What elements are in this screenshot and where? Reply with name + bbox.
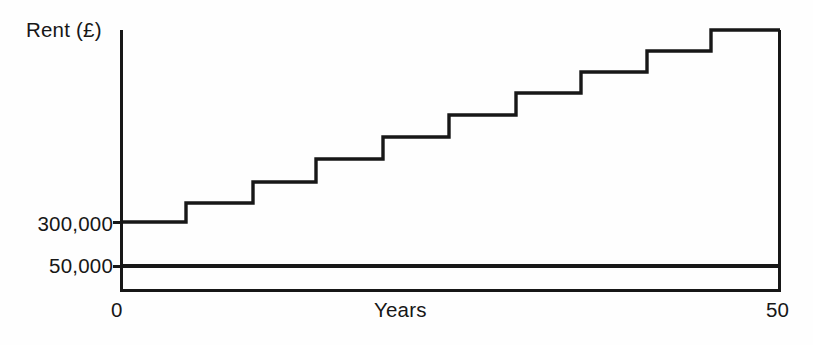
- rent-chart-figure: Rent (£) 300,000 50,000 0 Years 50: [0, 0, 813, 345]
- y-tick-label-300000: 300,000: [37, 214, 113, 235]
- x-tick-label-50: 50: [766, 300, 789, 321]
- x-tick-label-0: 0: [111, 300, 122, 321]
- chart-plot-area: [0, 0, 813, 345]
- x-axis-title: Years: [374, 300, 427, 321]
- y-axis-title: Rent (£): [26, 20, 102, 41]
- stepped-rent-series: [121, 30, 780, 222]
- y-tick-label-50000: 50,000: [49, 256, 113, 277]
